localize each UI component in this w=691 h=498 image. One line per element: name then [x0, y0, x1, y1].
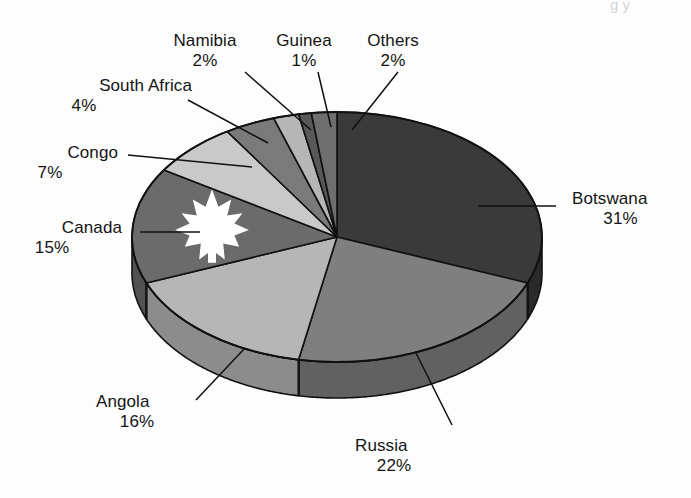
slice-label-congo: Congo 7%: [0, 143, 118, 183]
slice-label-congo-pct: 7%: [0, 163, 100, 183]
slice-label-congo-name: Congo: [0, 143, 118, 163]
slice-label-botswana-name: Botswana: [572, 189, 687, 209]
slice-label-canada-name: Canada: [0, 218, 122, 238]
slice-label-russia-pct: 22%: [355, 456, 433, 476]
slice-label-guinea: Guinea 1%: [263, 31, 345, 71]
pie-chart-figure: g y South Africa 4% Congo 7% Canada 15% …: [0, 0, 691, 498]
slice-label-namibia-name: Namibia: [160, 31, 250, 51]
slice-label-guinea-name: Guinea: [263, 31, 345, 51]
slice-label-south-africa: South Africa 4%: [0, 76, 192, 116]
slice-label-others-pct: 2%: [355, 51, 431, 71]
slice-label-canada: Canada 15%: [0, 218, 122, 258]
slice-label-angola-name: Angola: [96, 392, 196, 412]
slice-label-namibia: Namibia 2%: [160, 31, 250, 71]
slice-label-russia-name: Russia: [355, 436, 451, 456]
slice-label-angola: Angola 16%: [96, 392, 196, 432]
slice-label-south-africa-pct: 4%: [0, 96, 168, 116]
slice-label-botswana: Botswana 31%: [572, 189, 687, 229]
slice-label-russia: Russia 22%: [355, 436, 451, 476]
slice-label-angola-pct: 16%: [96, 412, 178, 432]
slice-label-others-name: Others: [355, 31, 431, 51]
slice-label-south-africa-name: South Africa: [0, 76, 192, 96]
slice-label-botswana-pct: 31%: [572, 209, 669, 229]
slice-label-others: Others 2%: [355, 31, 431, 71]
slice-label-namibia-pct: 2%: [160, 51, 250, 71]
slice-label-canada-pct: 15%: [0, 238, 104, 258]
slice-label-guinea-pct: 1%: [263, 51, 345, 71]
